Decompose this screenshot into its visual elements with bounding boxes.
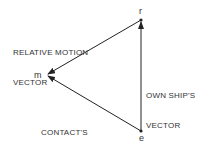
own-ships-vector-label: OWN SHIP'S VECTOR <box>146 71 195 141</box>
relative-motion-label-line2: VECTOR <box>13 78 88 88</box>
point-r-label: r <box>139 6 142 16</box>
point-e-label: e <box>139 133 144 143</box>
point-r-dot <box>139 18 142 21</box>
own-ships-label-line2: VECTOR <box>146 121 195 131</box>
relative-motion-vector-label: RELATIVE MOTION VECTOR <box>13 28 88 98</box>
contacts-label-line1: CONTACT'S <box>41 128 88 138</box>
contacts-vector-label: CONTACT'S VECTOR <box>41 108 88 147</box>
relative-motion-label-line1: RELATIVE MOTION <box>13 48 88 58</box>
own-ships-label-line1: OWN SHIP'S <box>146 91 195 101</box>
